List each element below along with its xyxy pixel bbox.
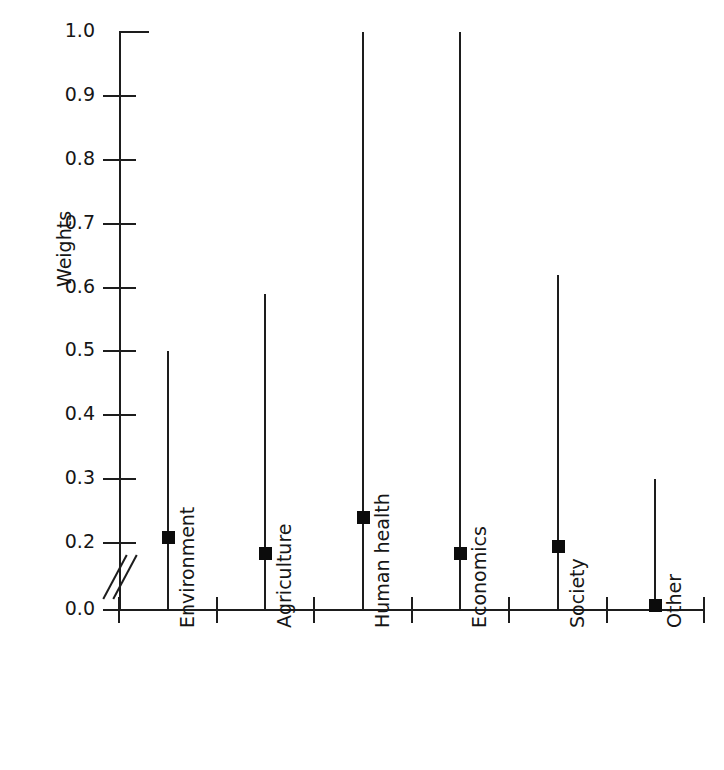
data-point-marker xyxy=(454,547,467,560)
y-axis-tick-label: 0.0 xyxy=(33,599,95,619)
data-point-marker xyxy=(259,547,272,560)
y-axis-tick-label-text: 0.3 xyxy=(33,468,95,487)
x-axis-category-label: Human health xyxy=(371,493,393,628)
y-axis-tick-label: 0.5 xyxy=(33,340,95,360)
x-axis-category-label: Agriculture xyxy=(273,524,295,629)
y-axis-tick-label-text: 0.4 xyxy=(33,404,95,423)
y-axis-tick-label: 0.2 xyxy=(33,532,95,552)
y-axis-tick-label-text: 0.9 xyxy=(33,85,95,104)
y-axis-tick xyxy=(103,287,136,289)
y-axis-tick-label: 0.6 xyxy=(33,277,95,297)
y-axis-tick xyxy=(103,223,136,225)
y-axis-tick-label: 1.0 xyxy=(33,21,95,41)
x-axis-tick xyxy=(411,597,413,623)
x-axis-category-label: Economics xyxy=(468,526,490,628)
y-axis-tick xyxy=(103,414,136,416)
data-point-marker xyxy=(357,511,370,524)
y-axis-tick-label: 0.7 xyxy=(33,213,95,233)
y-axis-tick-label: 0.9 xyxy=(33,85,95,105)
y-axis-tick-label-text: 0.2 xyxy=(33,532,95,551)
y-axis-tick xyxy=(103,159,136,161)
range-line xyxy=(654,479,656,610)
range-line xyxy=(459,32,461,610)
y-axis-tick-label: 0.8 xyxy=(33,149,95,169)
x-axis-category-label: Other xyxy=(663,574,685,628)
y-axis-tick xyxy=(103,542,136,544)
data-point-marker xyxy=(649,599,662,612)
y-axis-tick-label-text: 0.8 xyxy=(33,149,95,168)
x-axis-tick xyxy=(118,597,120,623)
range-line xyxy=(167,351,169,610)
data-point-marker xyxy=(162,531,175,544)
x-axis-category-label: Environment xyxy=(176,507,198,628)
y-axis-line xyxy=(119,32,121,611)
data-point-marker xyxy=(552,540,565,553)
x-axis-tick xyxy=(703,597,705,623)
y-axis-tick xyxy=(103,350,136,352)
y-axis-tick-label: 0.4 xyxy=(33,404,95,424)
x-axis-category-label: Society xyxy=(566,558,588,628)
y-axis-tick xyxy=(103,95,136,97)
weights-range-chart: ··· ···· ··· ····· ···· ·· ······ ··· ··… xyxy=(0,0,724,770)
y-axis-tick-label-text: 0.7 xyxy=(33,213,95,232)
y-axis-tick-label-text: 0.5 xyxy=(33,340,95,359)
x-axis-tick xyxy=(606,597,608,623)
y-axis-break-icon xyxy=(101,555,141,599)
y-axis-tick-label-text: 1.0 xyxy=(33,21,95,40)
x-axis-tick xyxy=(313,597,315,623)
y-axis-tick xyxy=(119,31,149,33)
y-axis-tick-label-text: 0.0 xyxy=(33,599,95,618)
range-line xyxy=(264,294,266,610)
x-axis-tick xyxy=(216,597,218,623)
y-axis-tick-label: 0.3 xyxy=(33,468,95,488)
x-axis-tick xyxy=(508,597,510,623)
y-axis-tick-label-text: 0.6 xyxy=(33,277,95,296)
range-line xyxy=(557,275,559,610)
cropped-title-remnant: ··· ···· ··· ····· ···· ·· ······ ··· ··… xyxy=(104,0,624,5)
y-axis-tick xyxy=(103,478,136,480)
